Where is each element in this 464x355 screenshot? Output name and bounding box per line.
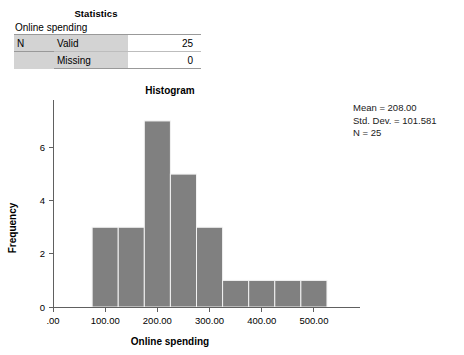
histogram-bar [275, 280, 301, 307]
x-tick-label: 400.00 [247, 315, 276, 326]
histogram-bars [92, 121, 327, 307]
table-cell-label: Missing [54, 52, 128, 69]
histogram-bar [249, 280, 275, 307]
histogram-bar [118, 227, 144, 307]
table-row: Missing 0 [14, 52, 201, 69]
histogram-bar [170, 174, 196, 307]
statistics-table-block: Statistics Online spending N Valid 25 Mi… [14, 8, 178, 69]
statistics-table-title: Statistics [14, 8, 178, 19]
histogram-bar [197, 227, 223, 307]
histogram-bar [92, 227, 118, 307]
y-tick-label: 6 [40, 142, 45, 153]
statistics-table: N Valid 25 Missing 0 [14, 34, 201, 69]
x-tick-label: 300.00 [195, 315, 224, 326]
y-tick-label: 0 [40, 302, 45, 313]
y-axis-title: Frequency [7, 202, 18, 253]
y-axis-ticks: 0246 [40, 142, 53, 312]
histogram-bar [223, 280, 249, 307]
y-tick-label: 4 [40, 195, 45, 206]
table-cell-label: Valid [54, 35, 128, 52]
x-tick-label: 100.00 [91, 315, 120, 326]
table-cell-group [14, 52, 54, 69]
table-cell-value: 25 [128, 35, 201, 52]
x-tick-label: 500.00 [299, 315, 328, 326]
x-axis-ticks: .00100.00200.00300.00400.00500.00 [46, 307, 328, 326]
statistics-table-subtitle: Online spending [14, 22, 178, 33]
table-row: N Valid 25 [14, 35, 201, 52]
y-tick-label: 2 [40, 248, 45, 259]
x-axis-title: Online spending [131, 336, 209, 347]
histogram-bar [301, 280, 327, 307]
histogram-chart-block: Histogram Mean = 208.00 Std. Dev. = 101.… [0, 80, 464, 355]
x-tick-label: .00 [46, 315, 59, 326]
table-cell-group: N [14, 35, 54, 52]
histogram-bar [144, 121, 170, 307]
histogram-plot: .00100.00200.00300.00400.00500.00 0246 O… [0, 80, 464, 355]
x-tick-label: 200.00 [143, 315, 172, 326]
table-cell-value: 0 [128, 52, 201, 69]
